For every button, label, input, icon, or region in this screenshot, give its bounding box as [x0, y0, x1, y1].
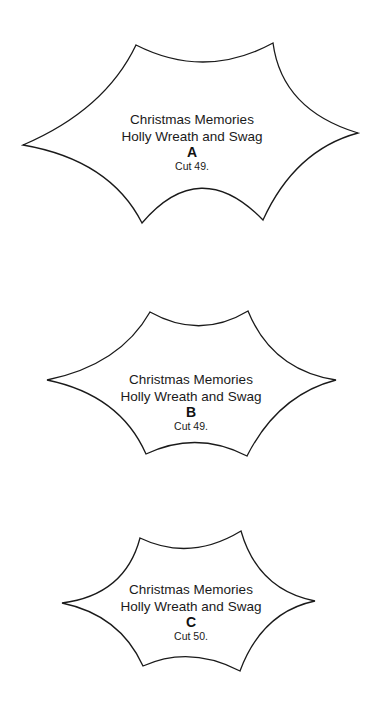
piece-c-label: Christmas Memories Holly Wreath and Swag… [91, 581, 291, 643]
piece-c-letter: C [91, 615, 291, 630]
piece-b-label: Christmas Memories Holly Wreath and Swag… [91, 371, 291, 433]
piece-c-cut-count: Cut 50. [91, 630, 291, 643]
piece-a-letter: A [92, 145, 292, 160]
piece-c-subtitle: Holly Wreath and Swag [91, 598, 291, 615]
piece-b-subtitle: Holly Wreath and Swag [91, 388, 291, 405]
piece-a-subtitle: Holly Wreath and Swag [92, 128, 292, 145]
piece-b-title: Christmas Memories [91, 371, 291, 388]
piece-a-label: Christmas Memories Holly Wreath and Swag… [92, 111, 292, 173]
piece-b-cut-count: Cut 49. [91, 420, 291, 433]
piece-a-title: Christmas Memories [92, 111, 292, 128]
piece-b-letter: B [91, 405, 291, 420]
piece-c-title: Christmas Memories [91, 581, 291, 598]
piece-a-cut-count: Cut 49. [92, 160, 292, 173]
